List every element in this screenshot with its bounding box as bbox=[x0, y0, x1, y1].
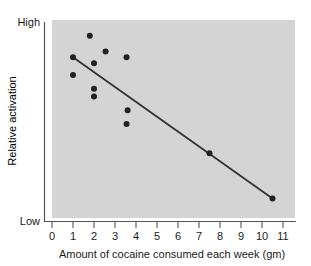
x-axis-tick-labels: 01234567891011 bbox=[49, 230, 289, 242]
data-point bbox=[124, 121, 130, 127]
data-point bbox=[103, 48, 109, 54]
x-axis-tick-label: 1 bbox=[70, 230, 76, 242]
data-point bbox=[87, 33, 93, 39]
data-point bbox=[91, 60, 97, 66]
x-axis-tick-label: 2 bbox=[91, 230, 97, 242]
x-axis-tick-label: 11 bbox=[277, 230, 288, 242]
data-point bbox=[207, 150, 213, 156]
x-axis-tick-label: 8 bbox=[217, 230, 223, 242]
x-axis-tick-label: 7 bbox=[196, 230, 202, 242]
x-axis-tick-label: 3 bbox=[112, 230, 118, 242]
scatter-plot-figure: 01234567891011 High Low Relative activat… bbox=[0, 0, 311, 266]
x-axis-tick-label: 10 bbox=[256, 230, 268, 242]
y-axis-low-label: Low bbox=[20, 215, 40, 227]
data-point bbox=[91, 93, 97, 99]
x-axis-title: Amount of cocaine consumed each week (gm… bbox=[59, 248, 285, 260]
data-point bbox=[270, 195, 276, 201]
data-point bbox=[70, 72, 76, 78]
chart-canvas: 01234567891011 High Low Relative activat… bbox=[0, 0, 311, 266]
y-axis-high-label: High bbox=[17, 16, 40, 28]
data-point bbox=[70, 54, 76, 60]
x-axis-tick-label: 6 bbox=[175, 230, 181, 242]
x-axis-tick-label: 9 bbox=[238, 230, 244, 242]
x-axis-tick-label: 4 bbox=[133, 230, 139, 242]
data-point bbox=[91, 86, 97, 92]
data-point bbox=[124, 54, 130, 60]
y-axis-title: Relative activation bbox=[6, 76, 18, 165]
x-axis-tick-label: 5 bbox=[154, 230, 160, 242]
data-point bbox=[125, 107, 131, 113]
x-axis-ticks bbox=[52, 222, 283, 228]
x-axis-tick-label: 0 bbox=[49, 230, 55, 242]
